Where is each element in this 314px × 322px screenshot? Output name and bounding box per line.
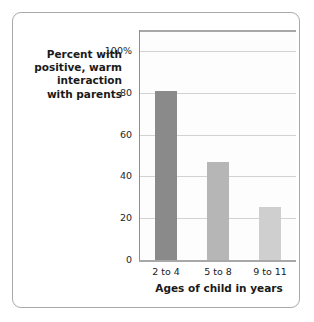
- y-axis-spine: [139, 30, 140, 261]
- y-tick-label: 60: [94, 130, 132, 140]
- bar: [155, 91, 177, 260]
- gridline: [140, 51, 296, 52]
- y-tick-label: 100%: [94, 46, 132, 56]
- x-tick-label: 9 to 11: [242, 266, 298, 277]
- y-tick-label: 40: [94, 171, 132, 181]
- bar: [259, 207, 281, 260]
- x-tick-label: 2 to 4: [138, 266, 194, 277]
- bar-chart-figure: Percent with positive, warm interaction …: [0, 0, 314, 322]
- y-tick-label: 20: [94, 213, 132, 223]
- x-axis-title: Ages of child in years: [140, 282, 298, 294]
- y-tick-label: 0: [94, 255, 132, 265]
- y-axis-label-line-2: positive, warm: [22, 61, 122, 74]
- x-axis-spine: [139, 260, 296, 262]
- y-tick-label: 80: [94, 88, 132, 98]
- x-tick-label: 5 to 8: [190, 266, 246, 277]
- bar: [207, 162, 229, 260]
- plot-top-rule: [140, 30, 296, 32]
- y-axis-label-line-3: interaction: [22, 74, 122, 87]
